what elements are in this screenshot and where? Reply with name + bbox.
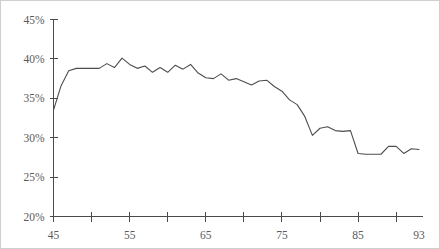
x-tick-label: 93 (413, 229, 425, 241)
x-axis-tick-labels: 455565758593 (48, 229, 425, 241)
x-tick-label: 65 (200, 229, 212, 241)
y-tick-label: 40% (23, 53, 45, 65)
x-tick-label: 75 (276, 229, 288, 241)
y-tick-label: 25% (23, 171, 45, 183)
data-series-line (54, 58, 420, 154)
y-tick-label: 35% (23, 92, 45, 104)
y-tick-label: 45% (23, 14, 45, 26)
chart-figure: 45%40%35%30%25%20% 455565758593 (0, 0, 440, 249)
y-tick-label: 20% (23, 211, 45, 223)
x-tick-label: 55 (124, 229, 136, 241)
x-tick-label: 45 (48, 229, 60, 241)
line-chart: 45%40%35%30%25%20% 455565758593 (1, 1, 440, 249)
y-tick-label: 30% (23, 132, 45, 144)
y-axis-tick-labels: 45%40%35%30%25%20% (23, 14, 45, 223)
x-tick-label: 85 (352, 229, 364, 241)
